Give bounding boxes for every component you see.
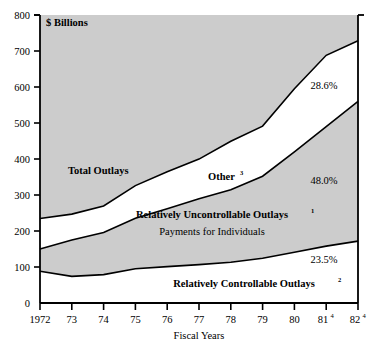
x-tick-superscript-82: 4 [362,312,366,319]
label-relatively-controllable-outlays: Relatively Controllable Outlays [173,278,315,289]
y-tick-label-400: 400 [14,154,30,165]
label-payments-for-individuals: Payments for Individuals [159,226,265,237]
x-tick-label-82: 82 [350,314,361,325]
x-axis-tick-labels: 1972 73 74 75 76 77 78 79 80 81 4 82 4 [30,312,367,325]
x-tick-label-78: 78 [226,314,237,325]
x-axis-ticks [40,303,358,310]
unit-label: $ Billions [46,17,88,28]
y-tick-label-300: 300 [14,190,30,201]
y-axis-tick-labels: 800 700 600 500 400 300 200 100 0 [14,10,30,309]
y-tick-label-500: 500 [14,118,30,129]
x-tick-label-1972: 1972 [30,314,51,325]
label-relatively-controllable-outlays-superscript: 2 [338,276,341,283]
x-tick-label-75: 75 [130,314,141,325]
share-pct-relatively-controllable: 23.5% [310,254,337,265]
x-tick-label-73: 73 [67,314,78,325]
x-tick-label-74: 74 [98,314,109,325]
x-tick-label-76: 76 [162,314,173,325]
x-tick-label-79: 79 [257,314,268,325]
x-tick-label-80: 80 [289,314,300,325]
y-tick-label-0: 0 [25,298,30,309]
y-tick-label-100: 100 [14,262,30,273]
label-relatively-uncontrollable-outlays-superscript: 1 [311,207,314,214]
share-pct-other: 28.6% [310,80,337,91]
outlays-area-chart: 800 700 600 500 400 300 200 100 0 [0,0,374,343]
label-other: Other [208,171,235,182]
y-tick-label-200: 200 [14,226,30,237]
share-pct-payments-for-individuals: 48.0% [310,175,337,186]
x-tick-label-81: 81 [318,314,329,325]
chart-container: 800 700 600 500 400 300 200 100 0 [0,0,374,343]
x-axis-title: Fiscal Years [174,330,225,341]
x-tick-label-77: 77 [194,314,205,325]
y-tick-label-700: 700 [14,46,30,57]
label-total-outlays: Total Outlays [68,165,129,176]
y-tick-label-600: 600 [14,82,30,93]
label-relatively-uncontrollable-outlays: Relatively Uncontrollable Outlays [136,209,288,220]
y-tick-label-800: 800 [14,10,30,21]
x-tick-superscript-81: 4 [330,312,334,319]
